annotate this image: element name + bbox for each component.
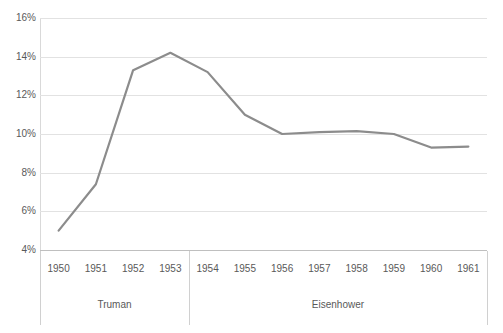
y-tick-label: 12% [2, 90, 36, 100]
group-separator [40, 251, 41, 325]
x-tick-label: 1961 [445, 263, 491, 274]
y-tick-label: 8% [2, 168, 36, 178]
series-line [40, 18, 487, 250]
series-polyline [59, 53, 469, 231]
group-separator [487, 251, 488, 325]
x-axis-labels: 1950195119521953195419551956195719581959… [40, 251, 487, 285]
group-label: Eisenhower [189, 299, 487, 310]
group-label: Truman [40, 299, 189, 310]
y-tick-label: 14% [2, 52, 36, 62]
y-tick-label: 6% [2, 206, 36, 216]
y-tick-label: 4% [2, 245, 36, 255]
plot-area [40, 18, 487, 250]
y-tick-label: 10% [2, 129, 36, 139]
group-labels: TrumanEisenhower [40, 285, 487, 325]
y-tick-label: 16% [2, 13, 36, 23]
y-axis-labels: 4%6%8%10%12%14%16% [0, 0, 36, 333]
group-separator [189, 251, 190, 325]
line-chart: 4%6%8%10%12%14%16% 195019511952195319541… [0, 0, 503, 333]
